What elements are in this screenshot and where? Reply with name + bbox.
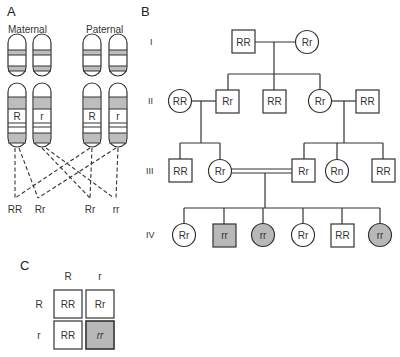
- genotype-label: Rr: [315, 96, 326, 107]
- genotype-label: RR: [236, 37, 250, 48]
- generation-label-II: II: [148, 96, 153, 106]
- individual-III-3: Rr: [292, 159, 315, 182]
- genotype-label: Rr: [298, 166, 309, 177]
- maternal-label: Maternal: [8, 24, 47, 35]
- chromosome-paternal-r: r: [109, 34, 127, 147]
- allele-label: R: [13, 111, 20, 122]
- individual-I-2: Rr: [296, 31, 319, 54]
- individual-III-4: Rn: [326, 160, 349, 183]
- col-header-R: R: [64, 271, 71, 282]
- cell-genotype: Rr: [95, 299, 106, 310]
- segregation-lines: [15, 148, 118, 198]
- individual-IV-5: RR: [331, 224, 354, 247]
- genotype-label: RR: [335, 230, 349, 241]
- genotype-label: Rr: [179, 230, 190, 241]
- panel-b-label: B: [141, 4, 150, 19]
- chromosome-maternal-R: R: [8, 34, 26, 147]
- offspring-genotype-RR: RR: [8, 204, 22, 215]
- cell-genotype: RR: [61, 330, 75, 341]
- col-header-r: r: [98, 271, 102, 282]
- row-header-R: R: [35, 299, 42, 310]
- panel-a: A Maternal Paternal R: [7, 4, 127, 215]
- paternal-label: Paternal: [86, 24, 123, 35]
- individual-IV-4: Rr: [292, 224, 315, 247]
- individual-I-1: RR: [232, 30, 255, 53]
- individual-II-1: RR: [169, 90, 192, 113]
- genotype-label: Rr: [298, 230, 309, 241]
- genotype-label: RR: [360, 96, 374, 107]
- punnett-cell-2-1: RR: [54, 321, 82, 349]
- punnett-cell-1-2: Rr: [86, 290, 114, 318]
- panel-c-punnett-square: C R r R r RR Rr RR rr: [20, 258, 114, 349]
- chromosome-paternal-R: R: [83, 34, 101, 147]
- panel-b: B I II III IV: [141, 4, 395, 247]
- generation-label-I: I: [150, 37, 153, 47]
- individual-IV-1: Rr: [173, 224, 196, 247]
- genotype-label: rr: [377, 230, 384, 241]
- offspring-genotype-Rr-1: Rr: [35, 204, 46, 215]
- cell-genotype: RR: [61, 299, 75, 310]
- genotype-label: Rn: [331, 166, 344, 177]
- generation-label-III: III: [146, 166, 154, 176]
- individual-IV-2-affected: rr: [213, 224, 236, 247]
- cell-genotype: rr: [97, 330, 104, 341]
- individual-III-2: Rr: [209, 160, 232, 183]
- genotype-label: RR: [376, 166, 390, 177]
- individual-IV-6-affected: rr: [369, 224, 392, 247]
- individual-IV-3-affected: rr: [252, 224, 275, 247]
- allele-label: R: [88, 111, 95, 122]
- individual-II-4: Rr: [309, 90, 332, 113]
- chromosome-maternal-r: r: [33, 34, 51, 147]
- genotype-label: Rr: [215, 166, 226, 177]
- generation-label-IV: IV: [146, 230, 155, 240]
- offspring-genotype-rr: rr: [113, 204, 120, 215]
- genotype-label: rr: [260, 230, 267, 241]
- panel-c-label: C: [20, 258, 29, 273]
- individual-III-1: RR: [169, 159, 192, 182]
- individual-II-3: RR: [263, 90, 286, 113]
- row-header-r: r: [37, 330, 41, 341]
- punnett-cell-1-1: RR: [54, 290, 82, 318]
- genotype-label: rr: [221, 230, 228, 241]
- genetics-figure: A Maternal Paternal R: [0, 0, 400, 357]
- individual-II-2: Rr: [216, 90, 239, 113]
- individual-III-5: RR: [372, 159, 395, 182]
- genotype-label: Rr: [302, 37, 313, 48]
- genotype-label: RR: [173, 96, 187, 107]
- pedigree-lines: [180, 42, 383, 224]
- individual-II-5: RR: [356, 90, 379, 113]
- genotype-label: Rr: [222, 96, 233, 107]
- punnett-cell-2-2-affected: rr: [86, 321, 114, 349]
- offspring-genotype-Rr-2: Rr: [85, 204, 96, 215]
- panel-a-label: A: [7, 4, 16, 19]
- genotype-label: RR: [267, 96, 281, 107]
- genotype-label: RR: [173, 166, 187, 177]
